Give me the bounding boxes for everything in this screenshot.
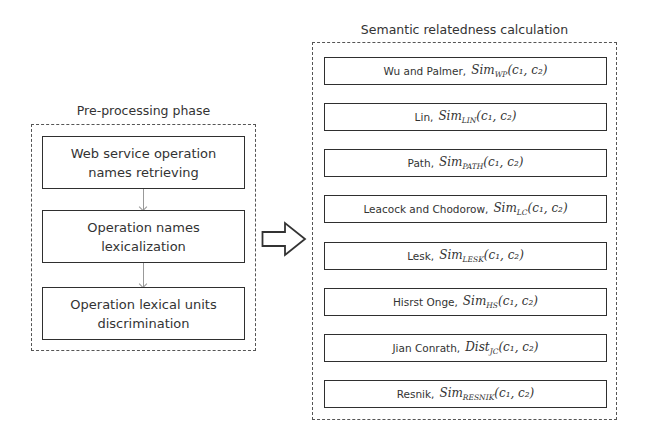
step-label-line2: lexicalization <box>87 237 199 256</box>
flow-arrow-icon <box>143 263 144 287</box>
measure-formula: SimLESK(c₁, c₂) <box>439 248 524 264</box>
step-operation-names-retrieving: Web service operation names retrieving <box>42 136 245 189</box>
flow-arrow-icon <box>143 189 144 210</box>
formula-args: (c₁, c₂) <box>507 63 547 77</box>
formula-subscript: RESNIK <box>463 393 494 402</box>
formula-args: (c₁, c₂) <box>476 109 516 123</box>
formula-function: Sim <box>471 63 494 77</box>
step-lexical-units-discrimination: Operation lexical units discrimination <box>42 287 245 340</box>
formula-args: (c₁, c₂) <box>498 294 538 308</box>
step-operation-names-lexicalization: Operation names lexicalization <box>42 210 245 263</box>
formula-subscript: LC <box>517 208 528 217</box>
step-label-line1: Operation lexical units <box>70 295 216 314</box>
formula-function: Sim <box>463 294 486 308</box>
formula-function: Sim <box>438 109 461 123</box>
measure-name: Lesk, <box>407 250 434 262</box>
pre-processing-title: Pre-processing phase <box>31 103 256 118</box>
measure-name: Path, <box>408 157 434 169</box>
formula-args: (c₁, c₂) <box>528 201 568 215</box>
measure-formula: SimPATH(c₁, c₂) <box>439 155 523 171</box>
semantic-relatedness-title: Semantic relatedness calculation <box>312 22 617 37</box>
semantic-relatedness-group <box>312 42 617 420</box>
measure-formula: SimHS(c₁, c₂) <box>463 294 538 310</box>
measure-path: Path,SimPATH(c₁, c₂) <box>324 149 607 177</box>
measure-formula: SimRESNIK(c₁, c₂) <box>439 386 534 402</box>
measure-name: Wu and Palmer, <box>384 65 467 77</box>
step-label-line1: Operation names <box>87 218 199 237</box>
formula-subscript: WP <box>495 70 508 79</box>
formula-function: Sim <box>439 386 462 400</box>
formula-args: (c₁, c₂) <box>498 340 538 354</box>
measure-name: Jian Conrath, <box>393 342 461 354</box>
measure-formula: DistJC(c₁, c₂) <box>465 340 538 356</box>
measure-lin: Lin,SimLIN(c₁, c₂) <box>324 103 607 131</box>
measure-resnik: Resnik,SimRESNIK(c₁, c₂) <box>324 380 607 408</box>
measure-jc: Jian Conrath,DistJC(c₁, c₂) <box>324 334 607 362</box>
measure-formula: SimLC(c₁, c₂) <box>493 201 567 217</box>
formula-subscript: PATH <box>462 162 483 171</box>
formula-function: Sim <box>439 155 462 169</box>
step-label-line1: Web service operation <box>71 144 217 163</box>
measure-lesk: Lesk,SimLESK(c₁, c₂) <box>324 242 607 270</box>
formula-function: Sim <box>493 201 516 215</box>
formula-subscript: HS <box>486 301 498 310</box>
measure-lc: Leacock and Chodorow,SimLC(c₁, c₂) <box>324 195 607 223</box>
measure-formula: SimLIN(c₁, c₂) <box>438 109 516 125</box>
measure-wp: Wu and Palmer,SimWP(c₁, c₂) <box>324 57 607 85</box>
formula-function: Dist <box>465 340 489 354</box>
formula-args: (c₁, c₂) <box>484 248 524 262</box>
formula-subscript: LIN <box>462 116 477 125</box>
measure-name: Lin, <box>415 111 434 123</box>
formula-subscript: LESK <box>463 255 484 264</box>
measure-name: Resnik, <box>397 388 435 400</box>
measure-hs: Hisrst Onge,SimHS(c₁, c₂) <box>324 288 607 316</box>
measure-name: Hisrst Onge, <box>393 296 458 308</box>
block-arrow-right-icon <box>261 221 307 257</box>
measure-name: Leacock and Chodorow, <box>363 203 488 215</box>
step-label-line2: names retrieving <box>71 163 217 182</box>
formula-args: (c₁, c₂) <box>494 386 534 400</box>
formula-function: Sim <box>439 248 462 262</box>
formula-args: (c₁, c₂) <box>483 155 523 169</box>
measure-formula: SimWP(c₁, c₂) <box>471 63 547 79</box>
step-label-line2: discrimination <box>70 314 216 333</box>
